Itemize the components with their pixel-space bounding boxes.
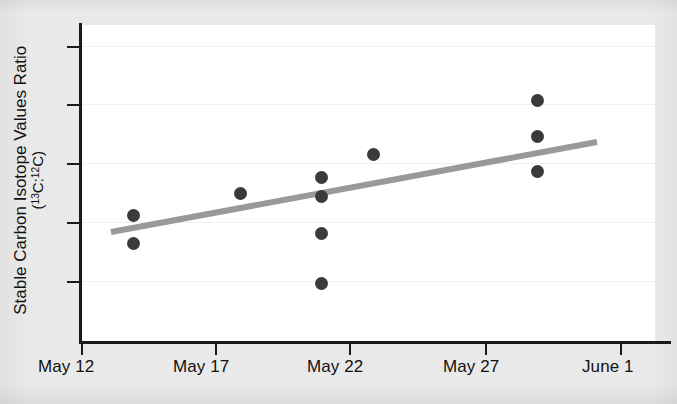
scatter-point: [127, 237, 140, 250]
x-axis-tick-label: May 12: [38, 357, 94, 377]
scatter-point: [234, 187, 247, 200]
x-axis-tick: [485, 343, 487, 355]
gridline: [81, 46, 655, 47]
scatter-point: [315, 171, 328, 184]
x-axis-line: [79, 341, 671, 344]
x-axis-tick: [215, 343, 217, 355]
y-axis-tick: [67, 281, 80, 283]
x-axis-tick: [620, 343, 622, 355]
gridline: [81, 104, 655, 105]
gridline: [81, 163, 655, 164]
isotope-13-superscript: 13: [30, 193, 41, 204]
y-axis-title-line2: (13C:12C): [30, 15, 47, 345]
y-axis-tick: [67, 46, 80, 48]
y-axis-title-paren-open: (: [29, 204, 46, 209]
x-axis-tick-label: June 1: [582, 357, 634, 377]
y-axis-tick: [67, 104, 80, 106]
x-axis-tick-label: May 22: [307, 357, 363, 377]
gridline: [81, 222, 655, 223]
scatter-point: [367, 148, 380, 161]
figure-container: May 12 May 17 May 22 May 27 June 1 Stabl…: [0, 0, 677, 404]
y-axis-title: Stable Carbon Isotope Values Ratio (13C:…: [11, 15, 47, 345]
x-axis-tick-label: May 17: [173, 357, 229, 377]
x-axis-tick: [349, 343, 351, 355]
gridline: [81, 281, 655, 282]
y-axis-title-line1: Stable Carbon Isotope Values Ratio: [11, 46, 30, 315]
x-axis-tick: [81, 343, 83, 355]
scatter-point: [531, 165, 544, 178]
plot-area: [81, 25, 655, 342]
scatter-point: [315, 190, 328, 203]
scatter-point: [315, 227, 328, 240]
y-axis-title-suffix: C): [29, 151, 46, 167]
scatter-point: [531, 94, 544, 107]
scatter-point: [127, 209, 140, 222]
x-axis-tick-label: May 27: [443, 357, 499, 377]
scatter-point: [315, 277, 328, 290]
y-axis-tick: [67, 222, 80, 224]
scatter-point: [531, 130, 544, 143]
y-axis-line: [79, 23, 82, 344]
y-axis-tick: [67, 163, 80, 165]
isotope-12-superscript: 12: [30, 167, 41, 178]
y-axis-title-mid: C:: [29, 178, 46, 193]
